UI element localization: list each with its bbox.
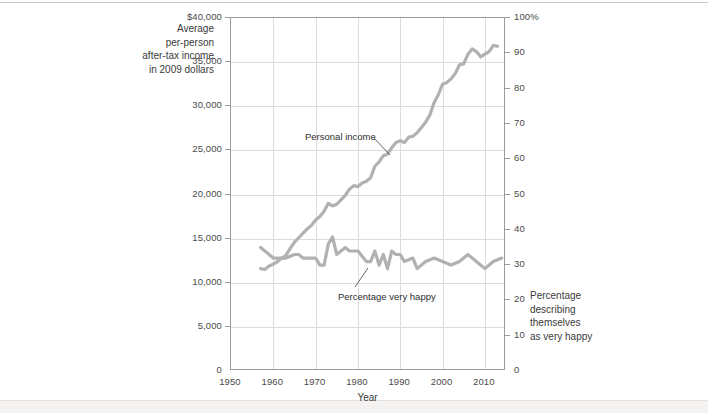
y-axis-right-tick-label: 30 bbox=[514, 258, 570, 269]
series-layer bbox=[231, 18, 506, 371]
y-axis-left-title-line-2: per-person bbox=[96, 36, 214, 50]
y-axis-left-title-line-1: Average bbox=[96, 22, 214, 36]
y-axis-left-tick-label: $40,000 bbox=[158, 11, 222, 22]
page-background: Average per-person after-tax income in 2… bbox=[0, 0, 708, 413]
y-axis-left-title: Average per-person after-tax income in 2… bbox=[96, 22, 214, 76]
x-axis-title: Year bbox=[230, 392, 505, 403]
y-axis-right-tick-label: 80 bbox=[514, 82, 570, 93]
x-axis-tick-label: 2000 bbox=[422, 376, 462, 387]
y-axis-right-tick-label: 0 bbox=[514, 364, 570, 375]
y-axis-left-tick-label: 35,000 bbox=[158, 55, 222, 66]
y-axis-left-tick-label: 30,000 bbox=[158, 99, 222, 110]
y-axis-right-tick-label: 100% bbox=[514, 11, 570, 22]
y-axis-right-title-line-2: describing bbox=[530, 303, 640, 317]
x-axis-tick-label: 2010 bbox=[464, 376, 504, 387]
y-axis-left-tick-label: 25,000 bbox=[158, 143, 222, 154]
y-axis-right-tick-label: 20 bbox=[514, 293, 570, 304]
y-axis-right-tick-label: 10 bbox=[514, 329, 570, 340]
x-axis-tick-label: 1970 bbox=[295, 376, 335, 387]
y-axis-left-tick-label: 5,000 bbox=[158, 320, 222, 331]
y-axis-left-tick-label: 20,000 bbox=[158, 188, 222, 199]
x-axis-tick-label: 1950 bbox=[210, 376, 250, 387]
y-axis-right-tick-label: 90 bbox=[514, 46, 570, 57]
x-axis-tick-label: 1990 bbox=[379, 376, 419, 387]
y-axis-left-tick-label: 10,000 bbox=[158, 276, 222, 287]
annotation-personal-income: Personal income bbox=[305, 131, 376, 142]
y-axis-right-tick-label: 40 bbox=[514, 223, 570, 234]
x-axis-tick-label: 1960 bbox=[252, 376, 292, 387]
y-axis-left-tick-label: 0 bbox=[158, 364, 222, 375]
y-axis-left-tick-label: 15,000 bbox=[158, 232, 222, 243]
x-axis-tick-label: 1980 bbox=[337, 376, 377, 387]
y-axis-right-tick-label: 50 bbox=[514, 188, 570, 199]
y-axis-right-tick-label: 70 bbox=[514, 117, 570, 128]
annotation-percentage-very-happy: Percentage very happy bbox=[338, 291, 436, 302]
chart-figure: Average per-person after-tax income in 2… bbox=[0, 0, 708, 413]
plot-area bbox=[230, 17, 505, 370]
y-axis-right-tick-label: 60 bbox=[514, 152, 570, 163]
series-line-personal-income bbox=[261, 45, 498, 269]
y-axis-right-title-line-3: themselves bbox=[530, 316, 640, 330]
